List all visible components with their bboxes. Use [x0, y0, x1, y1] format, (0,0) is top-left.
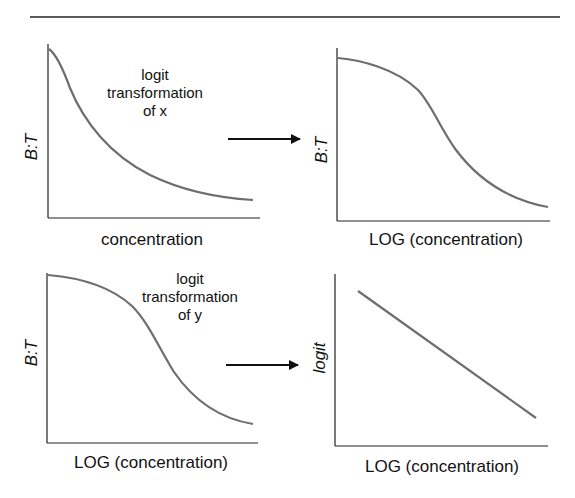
note-line: transformation [142, 288, 238, 305]
x-axis-label: LOG (concentration) [369, 230, 523, 249]
figure-canvas: B:T concentration logit transformation o… [0, 0, 575, 498]
panel-bottom-right: logit LOG (concentration) [310, 274, 548, 476]
y-axis-label: B:T [22, 338, 41, 366]
note-line: logit [176, 270, 204, 287]
y-axis-label: B:T [22, 132, 41, 160]
x-axis-label: LOG (concentration) [74, 453, 228, 472]
note-line: of y [178, 306, 203, 323]
linear-curve [358, 291, 536, 418]
note-line: logit [141, 66, 169, 83]
sigmoid-curve [338, 58, 548, 207]
transform-note-x: logit transformation of x [107, 66, 300, 139]
y-axis-label: logit [310, 341, 329, 373]
panel-top-right: B:T LOG (concentration) [312, 48, 550, 249]
x-axis-label: concentration [101, 230, 203, 249]
note-line: transformation [107, 84, 203, 101]
y-axis-label: B:T [312, 135, 331, 163]
transform-note-y: logit transformation of y [142, 270, 298, 365]
x-axis-label: LOG (concentration) [365, 457, 519, 476]
note-line: of x [143, 102, 168, 119]
